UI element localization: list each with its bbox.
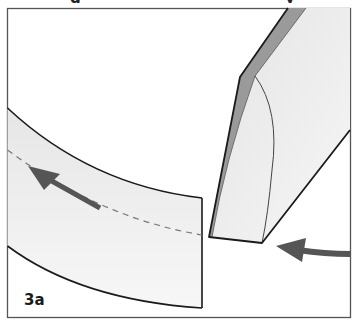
figure-label: 3a — [24, 291, 45, 309]
curved-strip — [8, 108, 203, 308]
knife-blade — [209, 8, 350, 243]
arrow-left-curved-icon — [276, 238, 350, 262]
diagram-canvas — [0, 0, 356, 328]
